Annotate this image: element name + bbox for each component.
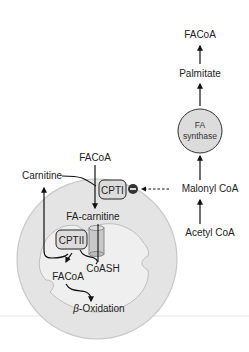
diagram-canvas: FACoA Palmitate FA synthase Malonyl CoA … (0, 0, 249, 352)
beta-oxidation-label: β-Oxidation (72, 303, 124, 314)
palmitate-label: Palmitate (179, 68, 221, 79)
synthesis-pathway: FACoA Palmitate FA synthase Malonyl CoA … (178, 29, 239, 238)
facoa-cytosol-label: FACoA (79, 152, 111, 163)
malonyl-coa-label: Malonyl CoA (182, 183, 239, 194)
acetyl-coa-label: Acetyl CoA (185, 227, 235, 238)
coash-label: CoASH (86, 263, 119, 274)
cpt2-label: CPTII (59, 235, 85, 246)
mitochondrion (17, 179, 177, 339)
oxidation-text: -Oxidation (79, 303, 125, 314)
carnitine-label: Carnitine (22, 170, 62, 181)
cpt1-label: CPTI (101, 185, 124, 196)
malonyl-inhibition (128, 184, 169, 194)
fa-synthase-label-line1: FA (195, 120, 206, 130)
facoa-matrix-label: FACoA (52, 271, 84, 282)
facoa-top-label: FACoA (184, 29, 216, 40)
fa-synthase-label-line2: synthase (183, 131, 217, 141)
minus-glyph (130, 188, 136, 190)
carnitine-translocase (89, 226, 104, 257)
fa-carnitine-label: FA-carnitine (66, 211, 120, 222)
